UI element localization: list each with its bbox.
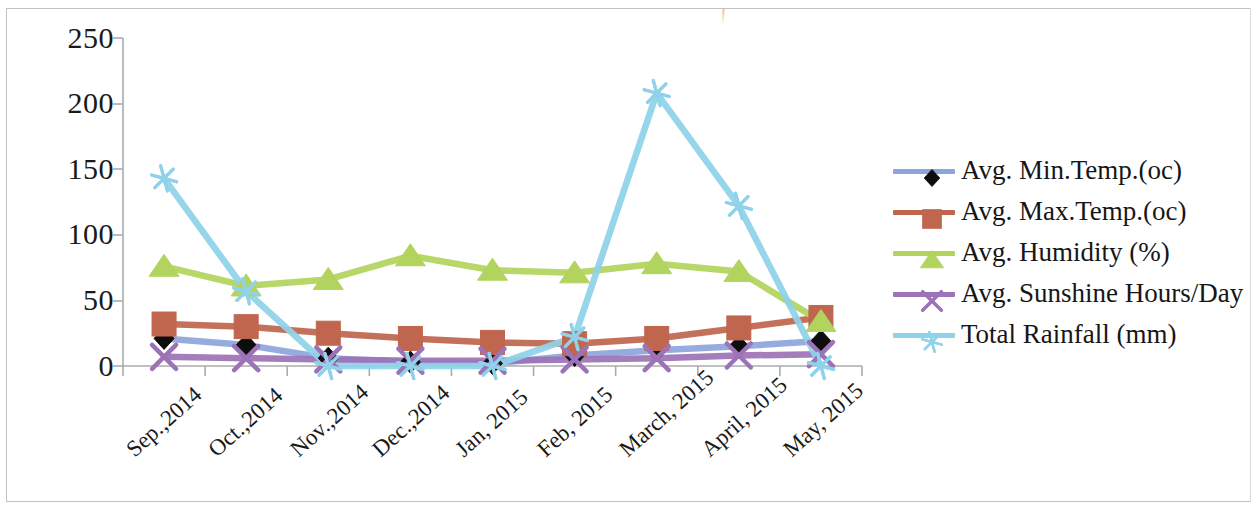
- legend-key-icon: [893, 322, 955, 348]
- weather-line-chart: 250 200 150 100 50 0 Sep.,2014Oct.,2014N…: [0, 0, 1259, 511]
- legend-item-label: Avg. Sunshine Hours/Day: [961, 280, 1243, 307]
- legend-marker-icon: [917, 246, 947, 274]
- legend-marker-icon: [917, 287, 947, 315]
- legend-key-icon: [893, 281, 955, 307]
- legend-key-icon: [893, 240, 955, 266]
- legend-item-5[interactable]: Total Rainfall (mm): [893, 314, 1253, 355]
- legend-item-label: Avg. Min.Temp.(oc): [961, 157, 1182, 184]
- legend-item-3[interactable]: Avg. Humidity (%): [893, 232, 1253, 273]
- legend-item-label: Avg. Humidity (%): [961, 239, 1170, 266]
- data-series-layer: [149, 81, 836, 379]
- legend-marker-icon: [917, 328, 947, 356]
- legend-item-4[interactable]: Avg. Sunshine Hours/Day: [893, 273, 1253, 314]
- legend-item-label: Total Rainfall (mm): [961, 321, 1177, 348]
- legend-item-1[interactable]: Avg. Min.Temp.(oc): [893, 150, 1253, 191]
- legend-key-icon: [893, 158, 955, 184]
- legend-marker-icon: [917, 164, 947, 192]
- legend-item-2[interactable]: Avg. Max.Temp.(oc): [893, 191, 1253, 232]
- legend-item-label: Avg. Max.Temp.(oc): [961, 198, 1187, 225]
- legend-marker-icon: [917, 205, 947, 233]
- chart-legend: Avg. Min.Temp.(oc)Avg. Max.Temp.(oc)Avg.…: [893, 150, 1253, 355]
- legend-key-icon: [893, 199, 955, 225]
